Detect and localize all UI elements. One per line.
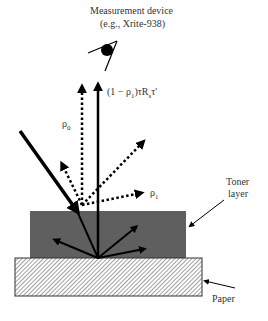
- incident-beam-arrow: [20, 131, 77, 211]
- paper-substrate: [15, 258, 202, 296]
- transmitted-formula-label: (1 − ρ1)τRsτ': [107, 86, 157, 102]
- paper-label: Paper: [212, 293, 235, 305]
- diagram-canvas: [0, 0, 268, 321]
- device-label-line1: Measurement device: [90, 5, 173, 17]
- toner-pointer-arrow: [190, 200, 224, 226]
- device-label-line2: (e.g., Xrite-938): [100, 18, 165, 30]
- surface-reflection-arrows: [62, 87, 143, 205]
- rho1-label: ρ1: [150, 187, 159, 203]
- toner-label-line2: layer: [228, 188, 248, 200]
- toner-label-line1: Toner: [226, 176, 249, 188]
- rho0-label: ρ0: [62, 118, 71, 134]
- measurement-device-eye-icon: [88, 41, 117, 71]
- paper-pointer-arrow: [205, 281, 235, 288]
